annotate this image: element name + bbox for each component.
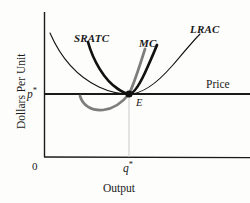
cost-curves-diagram: SRATC MC LRAC Price E p* q* 0 Dollars Pe… (0, 0, 250, 203)
mc-label: MC (139, 38, 157, 49)
y-axis-title: Dollars Per Unit (16, 54, 28, 129)
origin-label: 0 (32, 161, 38, 172)
sratc-label: SRATC (74, 33, 109, 44)
price-label: Price (206, 79, 230, 91)
lrac-curve (50, 33, 200, 94)
equilibrium-label: E (136, 98, 142, 109)
x-axis-title: Output (103, 183, 135, 195)
p-star-asterisk: * (33, 85, 37, 95)
equilibrium-point-dot (125, 90, 132, 97)
x-axis (44, 157, 250, 158)
p-star-tick-label: p* (27, 86, 37, 100)
q-star-tick-label: q* (123, 160, 133, 174)
lrac-label: LRAC (190, 24, 220, 35)
q-star-asterisk: * (129, 159, 133, 169)
